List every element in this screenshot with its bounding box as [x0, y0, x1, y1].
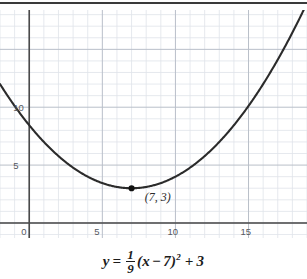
- equation-plus: +: [185, 253, 194, 269]
- vertex-point: [128, 185, 134, 191]
- fraction-denominator: 9: [126, 262, 135, 275]
- parabola-path: [0, 10, 307, 188]
- equation-equals: =: [113, 253, 122, 269]
- x-tick-label: 0: [21, 226, 26, 237]
- y-tick-label: 5: [13, 160, 18, 171]
- tick-labels: (7, 3)051015510: [13, 102, 251, 237]
- top-divider-rule: [0, 2, 307, 4]
- equation-constant: 3: [197, 253, 205, 269]
- equation-exponent: 2: [176, 252, 181, 262]
- vertex-marker: [128, 185, 134, 191]
- parabola-figure: (7, 3)051015510 y=19(x−7)2+3: [0, 0, 307, 279]
- y-tick-label: 10: [13, 102, 24, 113]
- equation-fraction: 19: [126, 248, 135, 276]
- coordinate-plane-svg: (7, 3)051015510: [0, 10, 307, 238]
- vertex-label: (7, 3): [145, 190, 171, 204]
- equation-shift: 7: [163, 253, 171, 269]
- x-tick-label: 10: [167, 226, 178, 237]
- equation-expression: y=19(x−7)2+3: [103, 249, 205, 277]
- plot-area: (7, 3)051015510: [0, 10, 307, 238]
- parabola-curve: [0, 10, 307, 188]
- equation-variable: x: [142, 253, 150, 269]
- x-tick-label: 15: [241, 226, 252, 237]
- equation-lhs: y: [103, 253, 110, 269]
- equation-caption: y=19(x−7)2+3: [0, 249, 307, 277]
- x-tick-label: 5: [94, 226, 99, 237]
- fraction-numerator: 1: [126, 248, 135, 262]
- equation-minus: −: [152, 253, 161, 269]
